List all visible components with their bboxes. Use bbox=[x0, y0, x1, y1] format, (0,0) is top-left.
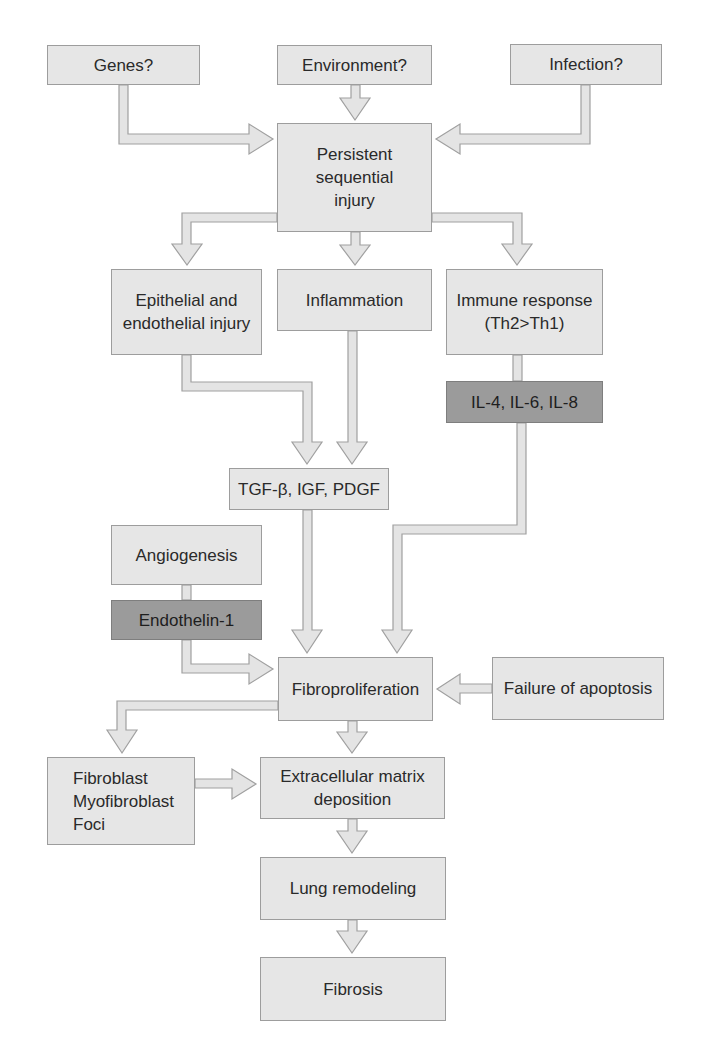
arrow-injury-to-epithelial bbox=[172, 213, 277, 265]
arrow-remodeling-to-fibrosis bbox=[337, 920, 367, 953]
node-growth-factors-label: TGF-β, IGF, PDGF bbox=[238, 478, 380, 501]
arrow-fibroproliferation-to-ecm bbox=[337, 721, 367, 753]
node-lung-remodeling: Lung remodeling bbox=[260, 857, 446, 920]
arrow-injury-to-immune bbox=[432, 213, 532, 265]
fibrosis-pathway-diagram: Genes? Environment? Infection? Persisten… bbox=[0, 0, 705, 1038]
arrow-ecm-to-remodeling bbox=[337, 819, 367, 853]
connector-angiogenesis-to-endothelin bbox=[182, 585, 191, 600]
node-persistent-injury: Persistent sequential injury bbox=[277, 123, 432, 232]
node-angiogenesis: Angiogenesis bbox=[111, 525, 262, 585]
node-epithelial-injury-label: Epithelial and endothelial injury bbox=[123, 289, 251, 335]
node-environment: Environment? bbox=[277, 45, 432, 85]
arrow-growth-factors-to-fibroproliferation bbox=[292, 510, 322, 653]
node-genes: Genes? bbox=[47, 45, 200, 85]
node-immune-response: Immune response (Th2>Th1) bbox=[446, 269, 603, 355]
arrow-apoptosis-to-fibroproliferation bbox=[437, 674, 492, 704]
node-lung-remodeling-label: Lung remodeling bbox=[290, 877, 417, 900]
node-interleukins-label: IL-4, IL-6, IL-8 bbox=[471, 391, 578, 414]
connector-immune-to-il bbox=[513, 355, 522, 381]
node-fibrosis-label: Fibrosis bbox=[323, 978, 383, 1001]
node-ecm-deposition-label: Extracellular matrix deposition bbox=[280, 765, 425, 811]
node-persistent-injury-label: Persistent sequential injury bbox=[316, 143, 394, 212]
node-failure-apoptosis: Failure of apoptosis bbox=[492, 657, 664, 720]
node-infection: Infection? bbox=[510, 44, 662, 85]
node-epithelial-injury: Epithelial and endothelial injury bbox=[111, 269, 262, 355]
node-inflammation: Inflammation bbox=[277, 269, 432, 331]
node-fibroproliferation: Fibroproliferation bbox=[278, 657, 433, 721]
arrow-injury-to-inflammation bbox=[340, 232, 370, 265]
node-immune-response-label: Immune response (Th2>Th1) bbox=[456, 289, 592, 335]
node-fibroproliferation-label: Fibroproliferation bbox=[292, 678, 420, 701]
node-endothelin-label: Endothelin-1 bbox=[139, 609, 234, 632]
node-failure-apoptosis-label: Failure of apoptosis bbox=[504, 677, 652, 700]
node-genes-label: Genes? bbox=[94, 54, 154, 77]
arrow-infection-to-injury bbox=[436, 85, 590, 154]
node-angiogenesis-label: Angiogenesis bbox=[135, 544, 237, 567]
node-infection-label: Infection? bbox=[549, 53, 623, 76]
node-fibrosis: Fibrosis bbox=[260, 957, 446, 1021]
arrow-il-to-fibroproliferation bbox=[382, 423, 526, 653]
arrow-environment-to-injury bbox=[340, 85, 370, 120]
arrow-inflammation-to-growth-factors bbox=[337, 331, 367, 464]
node-interleukins: IL-4, IL-6, IL-8 bbox=[446, 381, 603, 423]
node-fibroblast-foci-label: Fibroblast Myofibroblast Foci bbox=[73, 767, 174, 836]
node-environment-label: Environment? bbox=[302, 54, 407, 77]
node-growth-factors: TGF-β, IGF, PDGF bbox=[229, 468, 389, 510]
arrow-genes-to-injury bbox=[119, 85, 273, 154]
node-inflammation-label: Inflammation bbox=[306, 289, 403, 312]
arrow-fibroblast-to-ecm bbox=[195, 769, 256, 799]
node-fibroblast-foci: Fibroblast Myofibroblast Foci bbox=[47, 757, 195, 845]
node-endothelin: Endothelin-1 bbox=[111, 600, 262, 640]
arrow-endothelin-to-fibroproliferation bbox=[182, 640, 273, 684]
node-ecm-deposition: Extracellular matrix deposition bbox=[260, 757, 445, 819]
arrow-fibroproliferation-to-fibroblast bbox=[107, 701, 278, 753]
arrow-epithelial-to-growth-factors bbox=[182, 355, 322, 464]
